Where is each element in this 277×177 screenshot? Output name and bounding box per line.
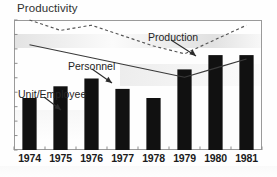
bar [115, 89, 129, 150]
bar-series-unit-employee [22, 55, 253, 150]
bar [239, 55, 253, 150]
x-axis-tick-label: 1980 [200, 152, 231, 170]
annotation-label-personnel: Personnel [68, 60, 115, 72]
x-axis-tick-label: 1979 [169, 152, 200, 170]
production-line [30, 20, 247, 54]
bar [146, 98, 160, 150]
line-series-production [30, 20, 247, 54]
x-axis-tick-label: 1977 [107, 152, 138, 170]
x-axis-tick-label: 1975 [45, 152, 76, 170]
x-axis-ticks [14, 147, 262, 151]
x-axis-tick-label: 1974 [14, 152, 45, 170]
chart-container: Productivity Production Personnel Unit/E… [0, 0, 277, 177]
arrow-personnel-head [105, 77, 112, 83]
x-axis-tick-label: 1978 [138, 152, 169, 170]
x-axis-tick-label: 1981 [231, 152, 262, 170]
x-axis-labels: 19741975197619771978197919801981 [14, 152, 262, 170]
annotation-label-production: Production [148, 31, 198, 43]
bar [22, 98, 36, 150]
bar [177, 69, 191, 150]
bar [84, 79, 98, 151]
y-axis-ticks [14, 20, 18, 150]
x-axis-tick-label: 1976 [76, 152, 107, 170]
annotation-label-unit-employee: Unit/Employee [18, 88, 86, 100]
